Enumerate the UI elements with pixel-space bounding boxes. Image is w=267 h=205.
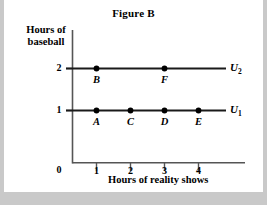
y-tick-label-1: 1	[52, 104, 66, 115]
chart-canvas	[4, 0, 263, 192]
data-point-c	[128, 108, 134, 114]
data-point-a	[94, 108, 100, 114]
curve-label-u1-base: U	[230, 103, 238, 115]
point-label-b: B	[90, 74, 104, 85]
x-tick-label-1: 1	[90, 165, 104, 176]
data-point-d	[162, 108, 168, 114]
curve-label-u2-sub: 2	[238, 67, 242, 76]
curve-label-u2: U2	[230, 61, 242, 76]
curve-label-u1: U1	[230, 103, 242, 118]
figure-card: Figure B Hours of baseball	[4, 0, 263, 192]
data-point-f	[162, 66, 168, 72]
figure-page: Figure B Hours of baseball	[0, 0, 267, 205]
point-label-c: C	[124, 116, 138, 127]
origin-label: 0	[52, 164, 66, 175]
point-label-a: A	[90, 116, 104, 127]
data-point-b	[94, 66, 100, 72]
point-label-f: F	[158, 74, 172, 85]
point-label-e: E	[192, 116, 206, 127]
curve-label-u1-sub: 1	[238, 109, 242, 118]
data-point-e	[196, 108, 202, 114]
curve-label-u2-base: U	[230, 61, 238, 73]
point-label-d: D	[158, 116, 172, 127]
y-tick-label-2: 2	[52, 62, 66, 73]
x-axis-label: Hours of reality shows	[108, 174, 208, 185]
